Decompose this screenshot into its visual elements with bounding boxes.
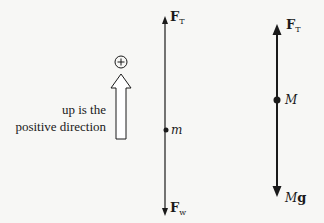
right-mass-label: M	[285, 93, 297, 107]
right-tension-label: FT	[286, 17, 301, 34]
weight-arrowhead-icon	[273, 186, 282, 197]
direction-note: up is the positive direction	[15, 101, 106, 135]
tension-arrowhead-icon	[273, 24, 282, 35]
left-tension-label: FT	[170, 9, 185, 26]
direction-note-line2: positive direction	[15, 118, 106, 135]
free-body-diagram: up is the positive direction FT m Fw FT …	[0, 0, 324, 223]
left-weight-label: Fw	[170, 200, 186, 217]
mass-point-icon	[164, 128, 169, 133]
positive-sign-icon	[115, 56, 127, 68]
hollow-up-arrow-icon	[111, 74, 131, 139]
direction-note-line1: up is the	[15, 101, 106, 118]
mass-point-icon	[274, 97, 281, 104]
left-mass-label: m	[171, 123, 182, 137]
tension-arrowhead-icon	[162, 16, 168, 24]
left-force-line	[162, 16, 169, 216]
right-force-line	[273, 24, 282, 197]
weight-arrowhead-icon	[162, 208, 168, 216]
right-weight-label: Mg	[285, 190, 306, 205]
